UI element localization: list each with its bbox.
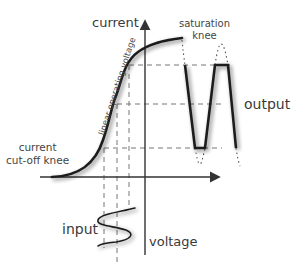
cutoff-label-line1: current — [6, 141, 69, 154]
cutoff-knee-label: current cut-off knee — [6, 141, 69, 167]
saturation-label-line1: saturation — [179, 18, 230, 30]
output-waveform — [185, 65, 236, 148]
saturation-label-line2: knee — [179, 30, 230, 42]
y-axis-label: current — [92, 16, 139, 29]
saturation-knee-label: saturation knee — [179, 18, 230, 42]
input-label: input — [62, 222, 98, 236]
cutoff-label-line2: cut-off knee — [6, 154, 69, 167]
output-label: output — [244, 97, 290, 111]
transfer-characteristic-diagram: current saturation knee output current c… — [0, 0, 305, 275]
input-waveform — [98, 208, 135, 246]
x-axis-label: voltage — [149, 235, 198, 248]
